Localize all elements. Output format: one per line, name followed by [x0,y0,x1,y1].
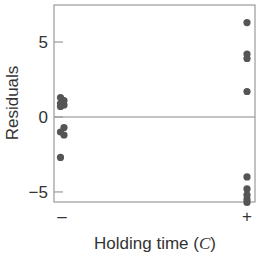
residual-plot: −505–+ Residuals Holding time (C) [0,0,263,268]
plot-area: −505–+ [29,5,255,226]
y-tick-label: −5 [29,183,48,202]
data-point [57,154,64,161]
data-point [243,55,250,62]
data-point [243,173,250,180]
data-point [243,19,250,26]
x-axis-title-prefix: Holding time ( [94,234,199,253]
y-tick-label: 5 [39,33,48,52]
data-point [60,131,67,138]
x-category-label: + [242,207,252,226]
x-category-label: – [57,207,67,226]
x-axis-title-suffix: ) [210,234,216,253]
data-point [243,199,250,206]
y-tick-label: 0 [39,108,48,127]
data-point [243,88,250,95]
plot-frame [54,5,255,202]
x-axis-title-italic: C [199,234,211,253]
data-point [57,103,64,110]
x-axis-title: Holding time (C) [94,234,216,253]
y-axis-title: Residuals [3,66,22,141]
